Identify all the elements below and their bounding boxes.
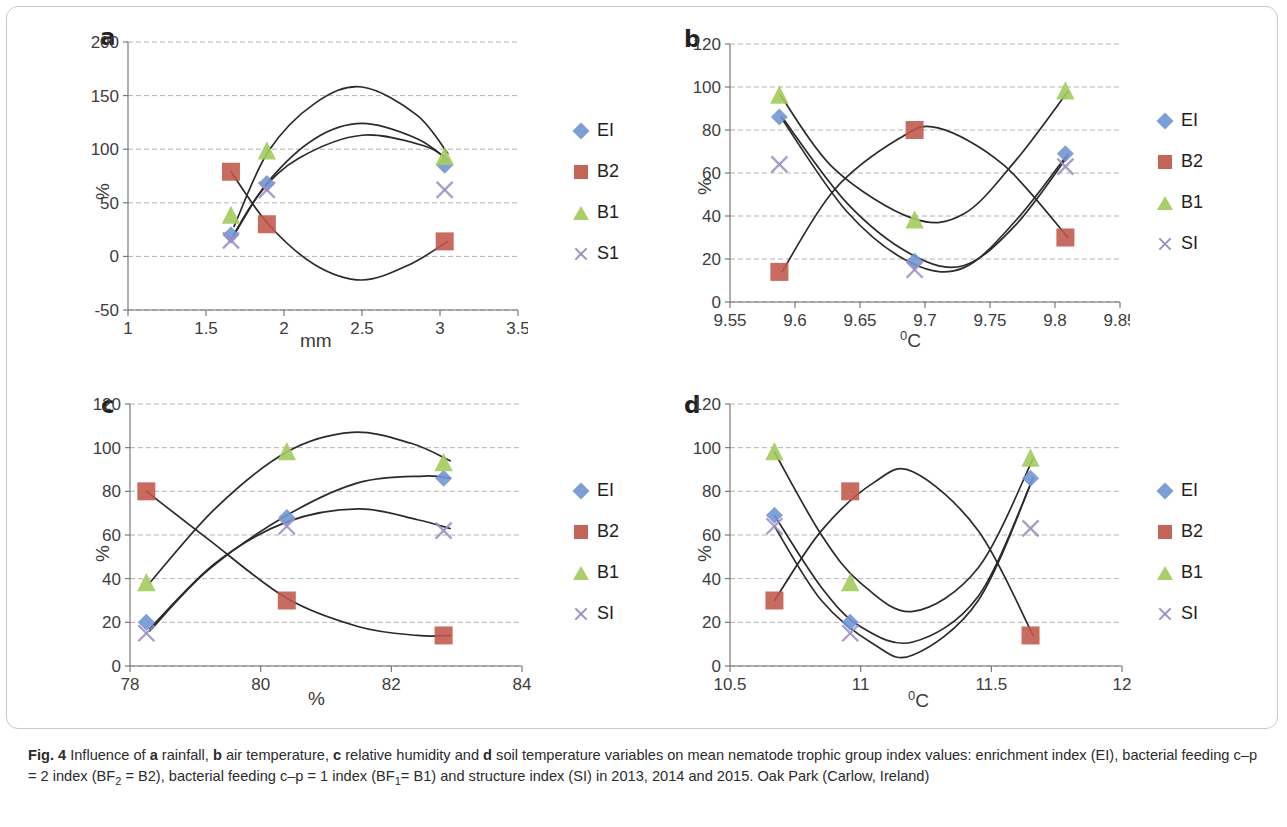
caption-run: Influence of [66, 747, 150, 763]
caption-run: = B1) and structure index (SI) in 2013, … [401, 768, 930, 784]
caption-run: air temperature, [222, 747, 333, 763]
caption-run: = B2), bacterial feeding c–p = 1 index (… [121, 768, 394, 784]
caption-run: rainfall, [158, 747, 213, 763]
caption-run: b [213, 747, 222, 763]
caption-run: a [150, 747, 158, 763]
caption-run: relative humidity and [341, 747, 483, 763]
caption-run: Fig. 4 [28, 747, 66, 763]
caption-run: c [333, 747, 341, 763]
figure-border [6, 6, 1278, 729]
caption-run: d [483, 747, 492, 763]
figure-caption: Fig. 4 Influence of a rainfall, b air te… [28, 745, 1260, 791]
